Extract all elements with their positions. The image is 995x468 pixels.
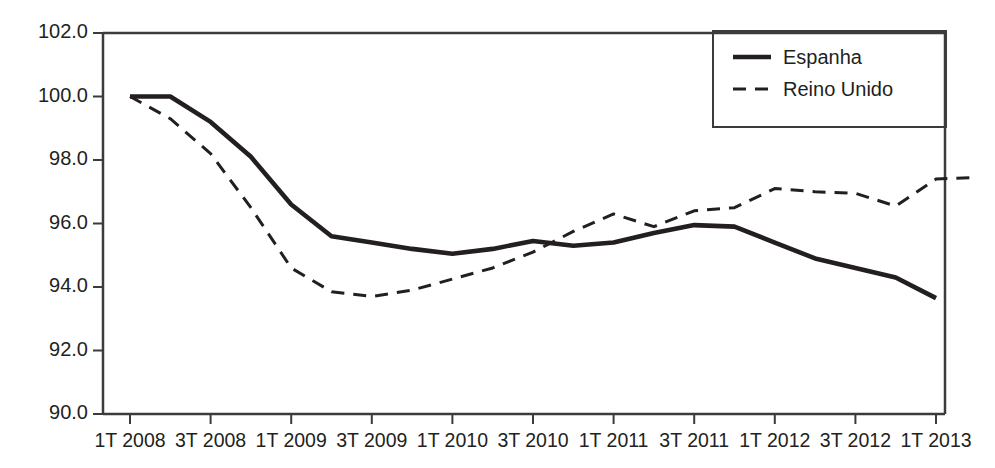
y-axis-tick-label: 100.0 <box>12 84 88 107</box>
x-axis-tick-label: 1T 2012 <box>739 429 810 452</box>
x-axis-tick-label: 3T 2008 <box>175 429 246 452</box>
x-axis-tick-label: 1T 2010 <box>417 429 488 452</box>
y-axis-tick-label: 90.0 <box>12 401 88 424</box>
x-axis-tick-label: 1T 2009 <box>256 429 327 452</box>
chart-plot-area <box>0 0 995 468</box>
legend-label-espanha: Espanha <box>783 46 862 69</box>
x-axis-tick-label: 3T 2009 <box>336 429 407 452</box>
x-axis-tick-label: 3T 2010 <box>497 429 568 452</box>
legend-line-samples <box>733 57 771 89</box>
y-axis-tick-label: 94.0 <box>12 274 88 297</box>
x-axis-tick-label: 1T 2011 <box>579 429 649 452</box>
x-axis-ticks <box>130 414 936 424</box>
y-axis-tick-label: 92.0 <box>12 338 88 361</box>
line-chart: 102.0100.098.096.094.092.090.0 1T 20083T… <box>0 0 995 468</box>
x-axis-tick-label: 3T 2012 <box>820 429 891 452</box>
legend-label-reino-unido: Reino Unido <box>783 78 893 101</box>
x-axis-tick-label: 1T 2008 <box>94 429 165 452</box>
y-axis-tick-label: 102.0 <box>12 20 88 43</box>
x-axis-tick-label: 3T 2011 <box>659 429 729 452</box>
x-axis-tick-label: 1T 2013 <box>900 429 971 452</box>
y-axis-tick-label: 96.0 <box>12 211 88 234</box>
y-axis-tick-label: 98.0 <box>12 147 88 170</box>
y-axis-ticks <box>93 33 103 414</box>
